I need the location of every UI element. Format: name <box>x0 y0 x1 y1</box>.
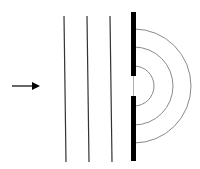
barrier-upper <box>131 12 136 76</box>
barrier-lower <box>131 96 136 161</box>
diffraction-diagram <box>0 0 200 169</box>
background <box>0 0 200 169</box>
